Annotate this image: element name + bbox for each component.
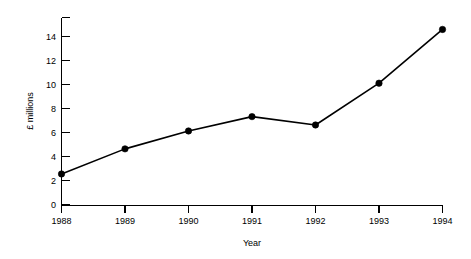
data-point [185,128,191,134]
data-point [439,26,445,32]
x-tick-label: 1993 [369,216,389,226]
data-point [376,80,382,86]
line-chart: 14 12 10 8 6 4 2 0 1988 1989 1990 1991 1… [0,0,471,259]
y-tick-label: 2 [51,176,56,186]
data-point [122,146,128,152]
y-tick-label: 0 [51,200,56,210]
x-tick-label: 1994 [432,216,452,226]
data-point [58,171,64,177]
x-axis-title: Year [243,238,261,248]
x-tick-label: 1990 [178,216,198,226]
x-tick-label: 1991 [242,216,262,226]
x-tick-label: 1989 [115,216,135,226]
y-axis-title: £ millions [25,92,35,130]
chart-canvas: 14 12 10 8 6 4 2 0 1988 1989 1990 1991 1… [0,0,471,259]
y-tick-label: 10 [46,80,56,90]
y-tick-label: 8 [51,104,56,114]
data-point [249,113,255,119]
y-tick-label: 12 [46,56,56,66]
y-tick-label: 14 [46,32,56,42]
y-tick-label: 6 [51,128,56,138]
x-tick-label: 1988 [51,216,71,226]
y-tick-label: 4 [51,152,56,162]
data-point [312,122,318,128]
x-tick-label: 1992 [305,216,325,226]
